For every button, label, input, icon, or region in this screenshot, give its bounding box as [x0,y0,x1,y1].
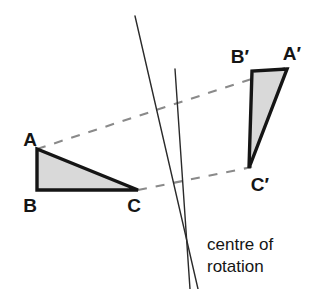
label-b-prime: B′ [231,46,250,67]
label-c-prime: C′ [251,174,270,195]
centre-of-rotation-caption-line2: rotation [207,257,264,276]
centre-of-rotation-caption-line1: centre of [207,235,273,254]
label-b: B [23,195,37,216]
label-a: A [23,129,37,150]
label-a-prime: A′ [283,43,302,64]
rotation-diagram: A B C A′ B′ C′ centre of rotation [0,0,322,289]
diagram-background [0,0,322,289]
label-c: C [127,195,141,216]
